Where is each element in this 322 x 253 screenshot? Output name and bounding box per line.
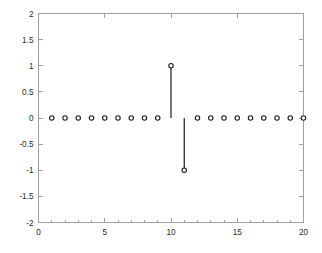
x-tick-label: 0 (36, 228, 41, 237)
data-point-marker (169, 64, 173, 68)
data-point-marker (182, 168, 186, 172)
data-point-marker (76, 116, 80, 120)
figure-canvas: 05101520 -2-1.5-1-0.500.511.52 (0, 0, 322, 253)
x-tick-label: 10 (166, 228, 176, 237)
data-point-marker (288, 116, 292, 120)
x-tick-label: 20 (299, 228, 309, 237)
y-tick-label: 0 (29, 114, 34, 123)
data-point-marker (248, 116, 252, 120)
data-point-marker (209, 116, 213, 120)
data-point-marker (142, 116, 146, 120)
y-tick-label: -2 (26, 219, 34, 228)
data-point-marker (156, 116, 160, 120)
data-point-marker (301, 116, 305, 120)
data-point-marker (50, 116, 54, 120)
data-point-marker (222, 116, 226, 120)
y-tick-label: 2 (29, 10, 34, 19)
y-tick-label: 0.5 (22, 88, 34, 97)
stem-lines (171, 66, 184, 171)
y-tick-label: 1.5 (22, 36, 34, 45)
x-tick-label: 5 (102, 228, 107, 237)
y-tick-label: -1 (26, 166, 34, 175)
data-point-marker (235, 116, 239, 120)
data-point-marker (103, 116, 107, 120)
y-axis-tick-labels: -2-1.5-1-0.500.511.52 (19, 10, 34, 228)
data-point-marker (195, 116, 199, 120)
stem-plot: 05101520 -2-1.5-1-0.500.511.52 (0, 0, 322, 253)
data-point-marker (129, 116, 133, 120)
data-point-marker (116, 116, 120, 120)
data-point-marker (63, 116, 67, 120)
y-tick-label: -0.5 (19, 140, 34, 149)
data-point-marker (89, 116, 93, 120)
x-tick-label: 15 (233, 228, 243, 237)
data-point-marker (262, 116, 266, 120)
data-point-marker (275, 116, 279, 120)
y-tick-label: 1 (29, 62, 34, 71)
data-point-markers (50, 64, 306, 173)
y-tick-label: -1.5 (19, 192, 34, 201)
x-axis-tick-labels: 05101520 (36, 228, 308, 237)
